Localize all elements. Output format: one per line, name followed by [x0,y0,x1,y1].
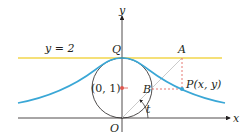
witch-of-agnesi-diagram: y x y = 2 Q A P(x, y) B (0, 1) O t [0,0,245,140]
x-axis-label: x [233,112,240,125]
point-P-dot [180,87,184,91]
point-A-label: A [177,43,186,56]
line-label: y = 2 [44,42,74,55]
angle-label: t [146,103,151,116]
point-Q-label: Q [112,43,121,56]
origin-label: O [110,122,119,135]
center-label: (0, 1) [91,82,121,95]
y-axis-label: y [118,4,126,17]
point-B-label: B [142,83,151,96]
diagram-canvas: y x y = 2 Q A P(x, y) B (0, 1) O t [0,0,245,140]
point-P-label: P(x, y) [185,78,221,91]
line-O-to-A [122,58,182,118]
